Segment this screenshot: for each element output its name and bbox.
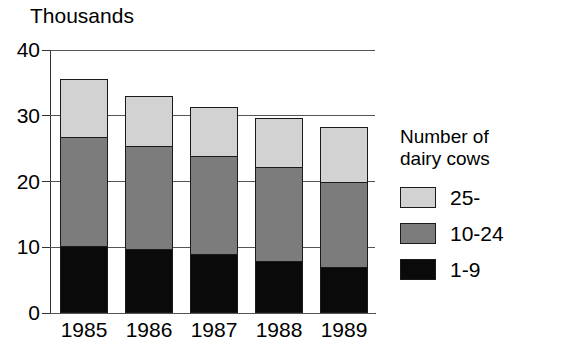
x-tick-label-1989: 1989	[309, 318, 379, 342]
bar-segment-1988-1-9	[255, 261, 303, 313]
y-axis-title: Thousands	[30, 4, 134, 28]
x-tick-label-1988: 1988	[244, 318, 314, 342]
bar-1987	[190, 50, 238, 313]
legend-swatch-10-24	[400, 223, 436, 244]
bar-segment-1986-10-24	[125, 146, 173, 250]
legend-title-line-2: dairy cows	[400, 148, 550, 170]
y-tick-mark-0	[42, 313, 50, 314]
legend-item-10-24[interactable]: 10-24	[400, 215, 550, 251]
legend-title-line-1: Number of	[400, 126, 550, 148]
y-tick-mark-20	[42, 181, 50, 182]
y-tick-label: 20	[0, 171, 40, 192]
bar-segment-1985-10-24	[60, 137, 108, 247]
bar-segment-1987-1-9	[190, 254, 238, 313]
legend-title: Number of dairy cows	[400, 126, 550, 170]
y-tick-label: 10	[0, 236, 40, 257]
bar-segment-1989-25-	[320, 127, 368, 183]
x-tick-label-1986: 1986	[114, 318, 184, 342]
bar-1985	[60, 50, 108, 313]
y-tick-label: 40	[0, 39, 40, 60]
y-tick: 0	[0, 302, 40, 323]
y-tick-mark-10	[42, 247, 50, 248]
bar-segment-1987-10-24	[190, 156, 238, 255]
y-tick: 10	[0, 236, 40, 257]
legend-item-1-9[interactable]: 1-9	[400, 251, 550, 287]
bar-segment-1989-10-24	[320, 182, 368, 268]
legend-items: 25-10-241-9	[400, 179, 550, 287]
y-tick: 20	[0, 171, 40, 192]
legend-label: 1-9	[450, 259, 480, 280]
y-tick: 30	[0, 105, 40, 126]
bar-segment-1986-1-9	[125, 249, 173, 313]
legend-label: 10-24	[450, 223, 504, 244]
bar-1988	[255, 50, 303, 313]
y-tick-label: 0	[0, 302, 40, 323]
y-tick: 40	[0, 39, 40, 60]
bar-segment-1986-25-	[125, 96, 173, 147]
bar-segment-1985-1-9	[60, 246, 108, 313]
legend-label: 25-	[450, 187, 480, 208]
bar-segment-1989-1-9	[320, 267, 368, 313]
bar-segment-1985-25-	[60, 79, 108, 138]
legend-swatch-1-9	[400, 259, 436, 280]
legend-item-25-[interactable]: 25-	[400, 179, 550, 215]
legend-swatch-25-	[400, 187, 436, 208]
y-tick-mark-30	[42, 115, 50, 116]
stacked-bar-chart: Thousands 010203040 19851986198719881989…	[0, 0, 561, 347]
bar-1989	[320, 50, 368, 313]
y-tick-mark-40	[42, 50, 50, 51]
y-tick-label: 30	[0, 105, 40, 126]
bar-segment-1987-25-	[190, 107, 238, 157]
plot-area	[50, 50, 375, 313]
x-tick-label-1985: 1985	[49, 318, 119, 342]
bar-segment-1988-10-24	[255, 167, 303, 262]
legend: Number of dairy cows 25-10-241-9	[400, 126, 550, 287]
x-tick-label-1987: 1987	[179, 318, 249, 342]
bar-1986	[125, 50, 173, 313]
bar-segment-1988-25-	[255, 118, 303, 168]
